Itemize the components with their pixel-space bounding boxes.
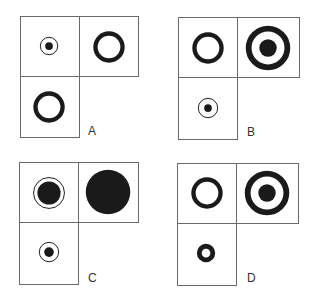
disc-in-thin-ring-icon	[20, 163, 78, 222]
option-b-top-right-cell	[237, 17, 300, 78]
option-c-bottom-left-cell	[19, 222, 79, 285]
dot-in-thin-ring-icon	[179, 78, 237, 139]
small-thick-ring-icon	[178, 224, 236, 285]
option-c-top-right-cell	[78, 162, 139, 223]
option-a-top-left-cell	[20, 16, 80, 77]
dot-in-thin-ring-icon	[21, 17, 79, 76]
option-a-top-right-cell	[79, 16, 139, 77]
target-ring-icon	[238, 18, 299, 77]
dot-in-thin-ring-icon	[20, 223, 78, 284]
option-b-top-left-cell	[178, 17, 238, 78]
option-b-label: B	[247, 125, 255, 139]
option-d-label: D	[247, 271, 256, 285]
thick-ring-icon	[21, 77, 79, 137]
option-d-bottom-left-cell	[177, 223, 237, 286]
option-a-label: A	[88, 124, 96, 138]
thick-ring-icon	[179, 18, 237, 77]
option-b-bottom-left-cell	[178, 77, 238, 140]
option-d-top-left-cell	[177, 163, 237, 224]
option-d-top-right-cell	[236, 163, 299, 224]
target-ring-icon	[237, 164, 298, 223]
option-c-label: C	[88, 271, 97, 285]
option-c-top-left-cell	[19, 162, 79, 223]
filled-disc-icon	[79, 163, 138, 222]
option-a-bottom-left-cell	[20, 76, 80, 138]
thick-ring-icon	[178, 164, 236, 223]
thick-ring-icon	[80, 17, 138, 76]
